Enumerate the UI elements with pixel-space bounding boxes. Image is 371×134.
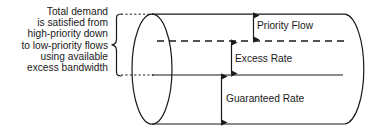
curly-brace <box>112 14 122 76</box>
caption-line-2: is satisfied from <box>0 17 108 28</box>
figure-canvas: Total demand is satisfied from high-prio… <box>0 0 371 134</box>
dimension-arrows <box>222 16 254 123</box>
cylinder-right-cap <box>345 14 364 124</box>
caption-line-6: excess bandwidth <box>0 62 108 73</box>
total-demand-annotation: Total demand is satisfied from high-prio… <box>0 6 108 73</box>
caption-line-4: to low-priority flows <box>0 40 108 51</box>
caption-line-1: Total demand <box>0 6 108 17</box>
annotation-brace-group <box>112 14 156 76</box>
guaranteed-rate-label: Guaranteed Rate <box>226 93 304 104</box>
caption-line-3: high-priority down <box>0 28 108 39</box>
cylinder-left-cap <box>132 14 172 124</box>
cylinder-body <box>132 14 364 124</box>
priority-flow-label: Priority Flow <box>257 20 313 31</box>
caption-line-5: using available <box>0 51 108 62</box>
excess-rate-label: Excess Rate <box>235 53 292 64</box>
